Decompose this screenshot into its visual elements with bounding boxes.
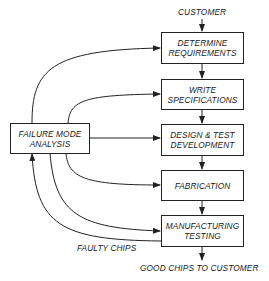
determine-requirements-box: DETERMINE REQUIREMENTS	[161, 32, 244, 64]
failure-mode-analysis-flow-diagram: CUSTOMER DETERMINE REQUIREMENTS WRITE SP…	[0, 0, 269, 281]
design-test-development-box: DESIGN & TEST DEVELOPMENT	[161, 124, 244, 156]
write-specifications-box: WRITE SPECIFICATIONS	[161, 79, 244, 110]
faulty-chips-label: FAULTY CHIPS	[77, 243, 136, 253]
manufacturing-testing-box: MANUFACTURING TESTING	[161, 215, 244, 247]
good-chips-output-label: GOOD CHIPS TO CUSTOMER	[140, 263, 259, 273]
customer-input-label: CUSTOMER	[178, 7, 226, 17]
failure-mode-analysis-box: FAILURE MODE ANALYSIS	[10, 123, 90, 154]
fabrication-box: FABRICATION	[161, 170, 244, 201]
